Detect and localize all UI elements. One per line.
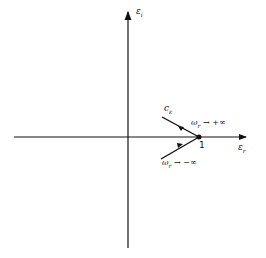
real-axis-label: εr — [238, 142, 246, 154]
curve-label: cε — [164, 103, 172, 115]
complex-plane-diagram — [0, 0, 266, 258]
imaginary-axis-label: εi — [136, 6, 143, 18]
lower-branch-label: ωr → −∞ — [162, 158, 197, 169]
lower-branch-line — [161, 137, 199, 159]
point-one-label: 1 — [199, 140, 205, 150]
point-one-marker — [197, 135, 202, 140]
upper-branch-label: ωr → +∞ — [191, 118, 226, 129]
